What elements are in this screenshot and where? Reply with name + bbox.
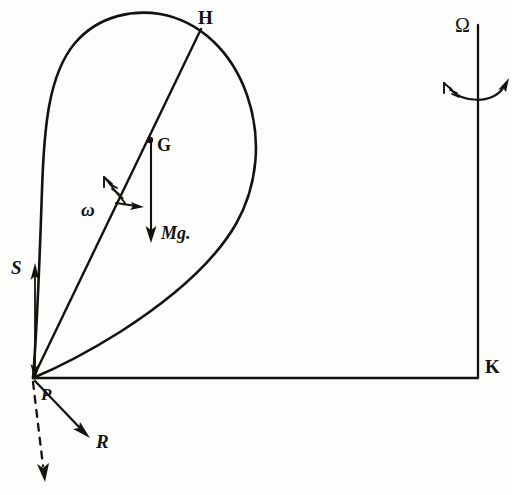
- top-body-outline: [33, 13, 256, 378]
- label-g: G: [157, 135, 171, 155]
- label-omega-capital: Ω: [455, 14, 470, 36]
- label-mg: Mg.: [160, 223, 191, 243]
- precession-arc-arrow: [444, 78, 509, 100]
- label-p: P: [40, 385, 52, 404]
- diagram-canvas: H G ω Ω Mg. S R P K: [0, 0, 512, 495]
- precession-arrow-head-right: [498, 78, 509, 92]
- precession-barb-1: [444, 83, 452, 90]
- label-s: S: [11, 257, 22, 278]
- spinning-top-diagram: H G ω Ω Mg. S R P K: [0, 0, 512, 495]
- mg-weight-arrow: [146, 142, 157, 243]
- top-body-path: [33, 13, 256, 378]
- label-h: H: [198, 7, 213, 28]
- label-omega-small: ω: [81, 199, 95, 220]
- label-r: R: [95, 431, 109, 452]
- omega-spin-arrow: [104, 177, 125, 203]
- label-k: K: [485, 356, 500, 377]
- omega-tangent-arrow: [116, 202, 144, 210]
